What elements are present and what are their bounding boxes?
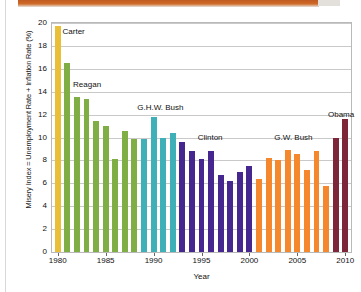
bar [55, 26, 61, 252]
bar [64, 63, 70, 252]
x-tick-label: 1995 [182, 256, 222, 265]
president-label: G.H.W. Bush [137, 103, 183, 112]
x-tick-label: 1990 [134, 256, 174, 265]
x-tick-label: 2010 [325, 256, 361, 265]
y-tick-label: 8 [23, 155, 47, 164]
bar [103, 126, 109, 252]
bar [179, 142, 185, 252]
x-tick-label: 2000 [229, 256, 269, 265]
bar [141, 139, 147, 252]
bar [170, 133, 176, 252]
president-label: Obama [328, 110, 354, 119]
y-tick-label: 16 [23, 64, 47, 73]
bar [266, 158, 272, 252]
bar [342, 119, 348, 252]
president-label: Reagan [73, 80, 101, 89]
bar [189, 151, 195, 252]
bar [237, 172, 243, 252]
y-tick-label: 18 [23, 41, 47, 50]
bar [151, 117, 157, 252]
x-tick-label: 2005 [277, 256, 317, 265]
bar [74, 97, 80, 252]
bar [256, 179, 262, 252]
bar [122, 131, 128, 252]
x-tick-label: 1985 [86, 256, 126, 265]
x-axis-title: Year [51, 272, 352, 281]
y-tick-label: 6 [23, 178, 47, 187]
misery-index-bar-chart: Misery Index = Unemployment Rate + Infla… [0, 0, 361, 292]
y-tick-label: 10 [23, 133, 47, 142]
bar [93, 121, 99, 252]
x-tick-label: 1980 [38, 256, 78, 265]
y-tick-label: 12 [23, 110, 47, 119]
bar [275, 160, 281, 252]
y-tick-label: 14 [23, 87, 47, 96]
page-canvas: Misery Index = Unemployment Rate + Infla… [0, 0, 361, 292]
bar [112, 159, 118, 252]
bar [131, 139, 137, 252]
bar [227, 181, 233, 252]
bar [160, 138, 166, 253]
bar [294, 154, 300, 252]
president-label: G.W. Bush [274, 133, 312, 142]
y-tick-label: 0 [23, 247, 47, 256]
bar [333, 138, 339, 253]
bar [218, 175, 224, 252]
president-label: Carter [63, 27, 85, 36]
bar [285, 150, 291, 252]
y-tick-label: 20 [23, 18, 47, 27]
y-tick-label: 2 [23, 224, 47, 233]
bar [323, 186, 329, 252]
bar [199, 159, 205, 252]
president-label: Clinton [198, 133, 223, 142]
bar [314, 151, 320, 252]
y-tick-label: 4 [23, 201, 47, 210]
bar [304, 170, 310, 252]
bar [84, 99, 90, 252]
bar [208, 151, 214, 252]
bar [246, 166, 252, 252]
